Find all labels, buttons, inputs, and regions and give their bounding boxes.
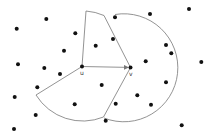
point-dot (187, 7, 191, 11)
node-u (80, 65, 84, 69)
point-dot (164, 80, 168, 84)
point-dot (34, 113, 38, 117)
point-dot (114, 102, 118, 106)
diagram-canvas: u v (0, 0, 214, 136)
point-dot (62, 49, 66, 53)
point-dot (12, 127, 16, 131)
point-dot (180, 123, 184, 127)
point-dot (16, 62, 20, 66)
point-dot (144, 59, 148, 63)
point-dot (15, 27, 19, 31)
label-u: u (80, 70, 84, 76)
point-dot (42, 66, 46, 70)
point-dot (73, 31, 77, 35)
point-dot (94, 44, 98, 48)
arrow-u-to-v (82, 67, 128, 68)
point-dot (149, 103, 153, 107)
point-dot (135, 93, 139, 97)
label-v: v (129, 71, 133, 77)
point-dot (13, 95, 17, 99)
point-dot (111, 37, 115, 41)
point-dot (169, 51, 173, 55)
point-dot (148, 12, 152, 16)
point-dot (73, 102, 77, 106)
point-dot (44, 17, 48, 21)
point-dot (164, 43, 168, 47)
point-dot (35, 85, 39, 89)
point-dot (113, 15, 117, 19)
point-dot (100, 83, 104, 87)
point-set (12, 7, 203, 131)
point-dot (104, 119, 108, 123)
point-dot (58, 72, 62, 76)
node-v (129, 66, 133, 70)
diagram-svg (0, 0, 214, 136)
point-dot (199, 60, 203, 64)
